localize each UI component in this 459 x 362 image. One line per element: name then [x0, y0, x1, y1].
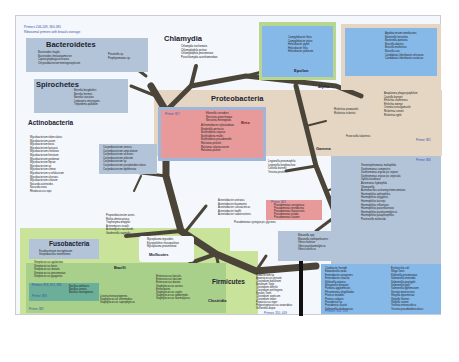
- beta-title: Beta: [241, 120, 250, 125]
- beta-box: Primer 357 Beta Eikenella corrodens Neis…: [161, 110, 263, 158]
- species-item: Chryseobacterium meningosepticum: [38, 62, 80, 66]
- species-item: Gardnerella vaginalis: [106, 232, 135, 236]
- francisella: Francisella tularensis: [346, 135, 370, 139]
- species-item: Pseudomonas stutzeri: [274, 216, 305, 219]
- primer-382-label: Primer 382: [416, 138, 431, 142]
- species-item: Helicobacter pullorum: [288, 50, 313, 54]
- species-item: Rhodococcus equi: [30, 190, 64, 194]
- mollicutes-box: Mycoplasma mycoides Erysipelothrix rhusi…: [139, 236, 194, 262]
- bacillus-box: Primers 353, 357, 382 Bacillus anthracis…: [29, 283, 99, 301]
- pseudomonas-box: Primer 363 Pseudomonas aeruginosa Pseudo…: [266, 200, 322, 220]
- species-item: Parachlamydia acanthamoebae: [181, 56, 217, 60]
- species-item: Mycoplasma pneumoniae: [147, 245, 179, 249]
- phylogenetic-figure: Primers 246-249, 360-381 Ribosomal prime…: [15, 15, 441, 315]
- enterics-box: Citrobacter freundii Edwardsiella tarda …: [321, 264, 441, 314]
- species-item: Rickettsia rickettsii: [334, 112, 358, 116]
- epsilon-outer: Campylobacter fetus Campylobacter jejuni…: [259, 22, 336, 80]
- species-item: Staphylococcus saprophyticus: [100, 301, 135, 304]
- mycobacteria-list: Mycobacterium tuberculosis Mycobacterium…: [30, 136, 64, 194]
- clostridia-title: Clostridia: [208, 298, 226, 303]
- legionella-list: Legionella pneumophila Legionella longbe…: [268, 160, 295, 174]
- species-item: Ralstonia picketii: [201, 149, 234, 153]
- bacteroidetes-title: Bacteroidetes: [46, 40, 96, 49]
- alpha-box: Agrobacterium tumefaciens Bartonella hen…: [345, 28, 437, 76]
- species-item: Staphylococcus haemolyticus: [156, 297, 190, 300]
- primer-358-359-label: Primers 358, 359: [325, 309, 348, 313]
- acinetobacter-list: Acinetobacter anitratus Acinetobacter ba…: [218, 199, 251, 217]
- bacteroidetes-box: Bacteroidetes Bacteroides fragilis Bacte…: [26, 38, 148, 72]
- pseudomonas-syringae: Pseudomonas syringae pv. glycinea: [234, 221, 275, 225]
- epsilon-title: Epsilon: [294, 68, 308, 73]
- species-item: Pasteurella multocida: [361, 218, 405, 222]
- primer-382-bacilli-label: Primer 382: [29, 307, 44, 311]
- species-item: Yersinia pestis: [268, 171, 295, 175]
- alpha-list: Anaplasma phagocytophilum Coxiella burne…: [384, 92, 417, 117]
- gamma-title: Gamma: [316, 146, 331, 151]
- primer-353-label: Primers 353, 357, 382: [32, 283, 62, 287]
- species-item: Streptococcus pyogenes: [34, 275, 65, 279]
- firmicutes-title: Firmicutes: [212, 278, 245, 285]
- spirochetes-box: Spirochetes Borrelia burgdorferi Borreli…: [34, 79, 128, 113]
- species-item: Mycobacterium scrofulaceum: [30, 172, 64, 176]
- alpha-outer: Agrobacterium tumefaciens Bartonella hen…: [341, 24, 441, 90]
- mollicutes-title: Mollicutes: [149, 252, 169, 257]
- divider-bar: [299, 261, 303, 316]
- primer-350-449-label: Primers 350, 449: [264, 311, 287, 315]
- chlamydia-list: Chlamydia trachomatis Chlamydophila psit…: [181, 45, 217, 59]
- species-item: Bacillus thuringiensis: [69, 291, 93, 294]
- species-item: Vibrio vulnificus: [298, 248, 328, 252]
- species-item: Corynebacterium diphtheriae: [103, 168, 146, 172]
- vibrio-box: Moraxella spp. Moraxella nonliquefaciens…: [278, 231, 338, 261]
- primer-357-label: Primer 357: [165, 112, 180, 116]
- primer-384-box: Primer 384 Stenotrophomonas maltophilia …: [331, 156, 441, 268]
- species-item: Yersinia pseudotuberculosis: [391, 308, 423, 311]
- chlamydia-title: Chlamydia: [164, 34, 202, 43]
- species-item: Rickettsia typhi: [384, 114, 417, 118]
- species-item: Streptobacillus moniliformis: [39, 253, 72, 256]
- rickettsia-list: Rickettsia prowazekii Rickettsia rickett…: [334, 108, 358, 115]
- clostridia-list: Eubacterium sp. Anaerococcus prevotii Cl…: [256, 274, 292, 310]
- species-item: Veillonella dispar: [256, 307, 292, 310]
- fusobacteria-title: Fusobacteria: [49, 240, 89, 247]
- bacilli-box: Bacilli Streptococcus agalactiae Strepto…: [26, 263, 226, 313]
- beta-outer: Primer 357 Beta Eikenella corrodens Neis…: [158, 107, 266, 161]
- species-item: Treponema pallidum: [74, 103, 100, 107]
- species-item: Candidatus Liberibacter asiaticus: [385, 57, 424, 61]
- species-item: Neisseria meningitidis: [206, 119, 232, 123]
- corynebacteria-box: Corynebacterium xerosis Corynebacterium …: [99, 144, 157, 174]
- spirochetes-title: Spirochetes: [36, 80, 79, 89]
- species-item: Acinetobacter radioresistens: [218, 213, 251, 217]
- fusobacteria-box: Fusobacteria Fusobacterium necrophorum S…: [29, 239, 99, 259]
- bacilli-title: Bacilli: [114, 265, 126, 270]
- proteobacteria-title: Proteobacteria: [211, 94, 264, 103]
- primer-383-label: Primer 383: [32, 294, 47, 298]
- species-item: Porphyromonas sp.: [108, 57, 131, 61]
- epsilon-box: Campylobacter fetus Campylobacter jejuni…: [262, 26, 333, 77]
- primer-384-label: Primer 384: [416, 158, 431, 162]
- alpha-title: Alpha: [318, 84, 329, 89]
- actino-others-list: Propionibacterium acnes Rothia dentocari…: [106, 214, 135, 236]
- actinobacteria-title: Actinobacteria: [28, 119, 73, 126]
